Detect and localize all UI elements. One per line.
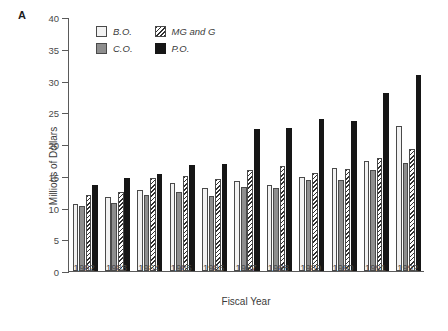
bar <box>73 204 79 271</box>
bar-group <box>364 18 389 271</box>
bar <box>111 203 117 271</box>
bar <box>222 164 228 271</box>
bar <box>306 180 312 271</box>
x-axis-tick-label: 1991 <box>365 262 386 273</box>
y-axis-tick <box>62 177 69 178</box>
y-axis-tick-label: 5 <box>54 235 59 246</box>
bar-group <box>299 18 324 271</box>
x-axis-tick-label: 1986 <box>203 262 224 273</box>
bar <box>86 195 92 271</box>
x-axis-tick-label: 1988 <box>268 262 289 273</box>
bar <box>176 192 182 271</box>
legend-entry: B.O. <box>96 26 133 37</box>
y-axis-tick-label: 10 <box>48 203 59 214</box>
legend-label: B.O. <box>113 26 132 37</box>
bar <box>312 173 318 271</box>
x-axis-tick-label: 1990 <box>333 262 354 273</box>
legend-swatch-icon <box>155 26 166 37</box>
bar <box>383 93 389 271</box>
x-axis-tick-label: 1985 <box>171 262 192 273</box>
bar-group <box>396 18 421 271</box>
bar <box>396 126 402 271</box>
y-axis-tick <box>62 240 69 241</box>
bar <box>338 180 344 271</box>
x-axis-tick-label: 1983 <box>106 262 127 273</box>
bar <box>209 196 215 271</box>
bar <box>247 170 253 271</box>
bar <box>364 161 370 271</box>
bar <box>118 192 124 271</box>
legend-swatch-icon <box>155 43 166 54</box>
bar <box>345 169 351 271</box>
bar <box>234 181 240 271</box>
bar <box>299 177 305 271</box>
x-axis-tick-label: 1982 <box>74 262 95 273</box>
bar <box>144 195 150 271</box>
y-axis-tick-label: 30 <box>48 76 59 87</box>
legend-swatch-icon <box>96 26 107 37</box>
bar <box>409 149 415 271</box>
plot-area <box>69 18 424 271</box>
y-axis-tick <box>62 82 69 83</box>
panel-letter: A <box>18 9 26 21</box>
legend-entry: MG and G <box>155 26 216 37</box>
x-axis-tick-label: 1984 <box>138 262 159 273</box>
legend-label: C.O. <box>113 43 133 54</box>
x-axis-tick-label: 1989 <box>300 262 321 273</box>
bar <box>377 158 383 271</box>
bar <box>332 168 338 272</box>
bar <box>150 178 156 271</box>
bar-group <box>170 18 195 271</box>
y-axis-tick <box>62 272 69 273</box>
legend-swatch-icon <box>96 43 107 54</box>
legend-label: P.O. <box>172 43 190 54</box>
bar-group <box>234 18 259 271</box>
y-axis-tick-label: 0 <box>54 267 59 278</box>
y-axis-tick-label: 20 <box>48 140 59 151</box>
x-axis-tick-label: 1987 <box>235 262 256 273</box>
bar-group <box>267 18 292 271</box>
bar <box>202 188 208 271</box>
bar <box>351 121 357 271</box>
y-axis-title: Millions of Dollars <box>48 126 59 204</box>
bar <box>189 165 195 271</box>
bar-group <box>202 18 227 271</box>
bar <box>241 187 247 271</box>
legend-label: MG and G <box>172 26 216 37</box>
bar <box>403 163 409 271</box>
bar <box>254 129 260 271</box>
bar <box>170 183 176 271</box>
bar <box>105 197 111 271</box>
bar <box>124 178 130 271</box>
bar <box>280 166 286 271</box>
y-axis-tick <box>62 113 69 114</box>
bar <box>92 185 98 271</box>
bar <box>157 174 163 271</box>
figure-panel-a: A Millions of Dollars Fiscal Year 051015… <box>0 0 448 331</box>
bar <box>416 75 422 271</box>
bar-group <box>332 18 357 271</box>
bar <box>319 119 325 271</box>
bar <box>183 176 189 271</box>
bar <box>267 185 273 271</box>
y-axis-tick-label: 15 <box>48 171 59 182</box>
legend-entry: C.O. <box>96 43 133 54</box>
legend-entry: P.O. <box>155 43 216 54</box>
bar <box>286 128 292 271</box>
bar-group <box>137 18 162 271</box>
y-axis-tick <box>62 209 69 210</box>
y-axis-tick <box>62 145 69 146</box>
x-axis-title: Fiscal Year <box>222 296 271 307</box>
y-axis-tick <box>62 18 69 19</box>
x-axis-tick-label: 1992 <box>397 262 418 273</box>
bar <box>137 190 143 271</box>
bar <box>215 179 221 271</box>
bar-group <box>73 18 98 271</box>
bar <box>370 170 376 271</box>
bar <box>273 188 279 271</box>
y-axis-tick-label: 25 <box>48 108 59 119</box>
y-axis-tick-label: 40 <box>48 13 59 24</box>
bar-group <box>105 18 130 271</box>
plot-frame: 0510152025303540 <box>68 18 424 272</box>
y-axis-tick-label: 35 <box>48 44 59 55</box>
